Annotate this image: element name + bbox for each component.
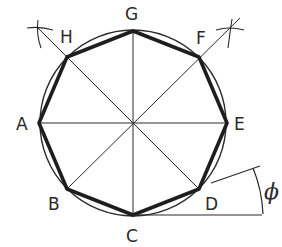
construction-arc-h-vertical xyxy=(37,20,41,48)
diameters xyxy=(38,18,240,215)
label-d: D xyxy=(205,194,218,214)
label-c: C xyxy=(126,226,138,246)
label-g: G xyxy=(125,4,138,24)
angle-arc xyxy=(253,168,263,214)
label-h: H xyxy=(60,27,73,47)
label-e: E xyxy=(234,114,245,134)
label-b: B xyxy=(48,194,60,214)
label-f: F xyxy=(196,28,206,48)
octagon-construction-diagram: A B C D E F G H ϕ xyxy=(0,0,282,247)
label-phi: ϕ xyxy=(264,179,279,204)
diagonal-fb-extended xyxy=(67,18,240,189)
construction-arc-f-vertical xyxy=(228,19,232,48)
diagonal-hd-extended xyxy=(38,28,199,189)
label-a: A xyxy=(16,114,28,134)
